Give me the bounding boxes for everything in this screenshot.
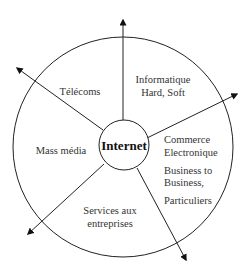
label-hard-soft: Hard, Soft <box>141 87 185 98</box>
label-electronique: Electronique <box>164 147 218 158</box>
label-services-aux: Services aux <box>83 205 137 216</box>
label-entreprises: entreprises <box>87 218 132 229</box>
label-mass-media: Mass média <box>36 145 87 156</box>
label-telecoms: Télécoms <box>60 86 101 97</box>
arrow-upper-right <box>147 94 237 138</box>
label-informatique: Informatique <box>136 74 191 85</box>
label-business-to: Business to <box>164 165 212 176</box>
label-particuliers: Particuliers <box>164 195 212 206</box>
internet-sectors-diagram: Internet Télécoms Informatique Hard, Sof… <box>0 0 250 272</box>
center-label: Internet <box>101 138 147 153</box>
label-business: Business, <box>164 177 204 188</box>
label-commerce: Commerce <box>164 134 210 145</box>
arrow-upper-left <box>17 68 103 130</box>
